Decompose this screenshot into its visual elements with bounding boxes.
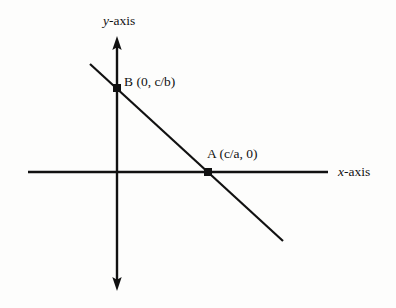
y-axis-label-suffix: -axis: [109, 13, 135, 28]
x-axis-label: x-axis: [338, 165, 370, 179]
graph-canvas: [0, 0, 396, 308]
point-b-label: B (0, c/b): [124, 75, 175, 89]
point-a-label: A (c/a, 0): [207, 147, 258, 161]
line-graph-figure: y-axis x-axis B (0, c/b) A (c/a, 0): [0, 0, 396, 308]
x-axis-label-suffix: -axis: [344, 164, 370, 179]
y-axis-label: y-axis: [103, 14, 135, 28]
point-b-marker: [113, 84, 121, 92]
point-a-marker: [204, 168, 212, 176]
